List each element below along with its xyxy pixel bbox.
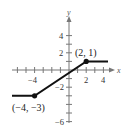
x-axis [12,67,115,73]
x-tick-label-neg4: −4 [28,75,38,85]
point-label-2-1: (2, 1) [75,47,97,59]
x-axis-label: x [116,66,121,75]
y-tick-label-4: 4 [59,31,64,41]
x-tick-label-2: 2 [84,75,88,85]
y-tick-label-2: 2 [59,48,63,58]
y-tick-label-neg2: −2 [55,82,64,92]
y-tick-label-neg6: −6 [55,117,64,126]
point-2-1 [84,59,89,64]
x-arrow-icon [109,68,115,73]
x-tick-label-4: 4 [101,75,106,85]
point-neg4-neg3 [32,93,37,98]
point-label-neg4-neg3: (−4, −3) [12,102,45,114]
y-axis-label: y [66,8,71,17]
graph: −4 2 4 4 2 −2 −6 x y (2, 1) (−4, −3) [0,0,128,125]
